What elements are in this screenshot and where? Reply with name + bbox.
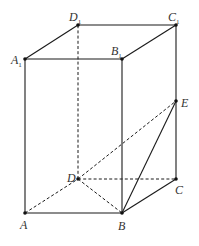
edge-B1-C1 [122,25,176,59]
label-B: B [118,219,126,233]
hidden-edge-D-B [78,179,122,213]
label-C: C [175,183,184,197]
vertex-A1-point [23,57,27,61]
label-D: D [66,171,76,185]
label-A: A [19,218,28,232]
label-A1: A1 [10,53,22,69]
hidden-edge-D-E [78,101,176,179]
vertex-E-point [174,99,178,103]
label-C1: C1 [168,10,180,26]
vertex-D-point [76,177,80,181]
vertex-A-point [23,211,27,215]
edge-D1-A1 [25,25,78,59]
label-B1: B1 [111,44,122,60]
vertex-C-point [174,177,178,181]
prism-diagram: D1 C1 A1 B1 E D C A B [0,0,199,246]
vertex-B-point [120,211,124,215]
label-E: E [180,96,189,110]
label-D1: D1 [68,10,82,26]
